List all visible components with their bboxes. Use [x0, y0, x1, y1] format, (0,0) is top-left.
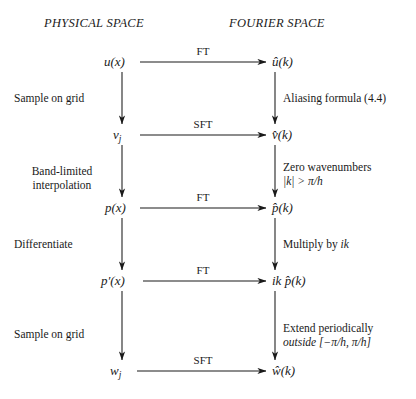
arrow-label-ft-row4: FT [185, 264, 221, 276]
right-label-zero-wavenumbers-line1: Zero wavenumbers [283, 161, 371, 175]
commutative-diagram: PHYSICAL SPACE FOURIER SPACE FT SFT FT F… [0, 0, 416, 399]
right-label-zero-wavenumbers-line2: |k| > π/h [283, 175, 371, 189]
node-w-hat-of-k: ŵ(k) [272, 364, 295, 377]
node-v-hat-of-k: v̂(k) [272, 128, 292, 141]
right-label-zero-wavenumbers: Zero wavenumbers |k| > π/h [283, 161, 371, 188]
node-v-subscript: j [119, 134, 122, 144]
node-u-hat-of-k: û(k) [272, 55, 293, 68]
right-label-extend-line1: Extend periodically [283, 322, 373, 336]
arrow-label-sft-row2: SFT [183, 118, 223, 130]
node-p-prime-of-x: p′(x) [101, 274, 125, 287]
arrow-label-ft-row3: FT [185, 191, 221, 203]
node-v-sub-j: vj [113, 128, 121, 144]
node-p-hat-of-k: p̂(k) [272, 201, 293, 214]
node-w-symbol: w [110, 363, 119, 378]
arrow-label-ft-row1: FT [185, 45, 221, 57]
arrow-label-sft-row5: SFT [183, 354, 223, 366]
right-label-multiply-by-ik: Multiply by ik [283, 238, 349, 252]
left-label-band-limited-line1: Band-limited [12, 165, 112, 179]
right-label-extend-periodically: Extend periodically outside [−π/h, π/h] [283, 322, 373, 349]
node-w-sub-j: wj [110, 364, 121, 380]
left-label-differentiate: Differentiate [14, 238, 73, 252]
right-label-aliasing-formula: Aliasing formula (4.4) [283, 92, 386, 106]
right-label-multiply-math: ik [341, 238, 349, 250]
left-label-sample-on-grid-2: Sample on grid [14, 328, 84, 342]
node-ik-p-hat-of-k: ik p̂(k) [272, 274, 306, 287]
right-label-extend-line2: outside [−π/h, π/h] [283, 336, 373, 350]
left-label-band-limited-line2: interpolation [12, 179, 112, 193]
left-label-sample-on-grid-1: Sample on grid [14, 92, 84, 106]
node-p-of-x: p(x) [105, 201, 126, 214]
right-label-multiply-text: Multiply by [283, 238, 341, 250]
node-u-of-x: u(x) [104, 55, 125, 68]
node-w-subscript: j [119, 370, 122, 380]
left-label-band-limited-interpolation: Band-limited interpolation [12, 165, 112, 192]
